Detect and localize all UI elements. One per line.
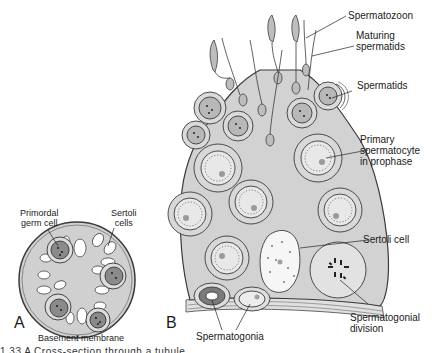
label-spermatids: Spermatids	[357, 80, 408, 91]
panel-b-epithelium	[168, 15, 389, 330]
diagram-canvas	[0, 0, 436, 353]
panel-a-cord	[19, 222, 135, 338]
label-sertoli-cells: Sertoli cells	[111, 208, 137, 228]
label-primordial-germ-cell: Primordal germ cell	[20, 208, 59, 228]
label-sertoli-cell: Sertoli cell	[363, 234, 409, 245]
label-spermatogonia: Spermatogonia	[196, 331, 264, 342]
label-maturing-spermatids: Maturing spermatids	[356, 30, 405, 52]
panel-letter-b: B	[166, 314, 177, 332]
label-primary-spermatocyte: Primary spermatocyte in prophase	[360, 134, 420, 167]
label-spermatogonial-division: Spermatogonial division	[350, 312, 420, 334]
panel-letter-a: A	[14, 314, 25, 332]
label-basement-membrane: Basement membrane	[38, 333, 124, 343]
figure-caption: 1.33 A Cross-section through a tubule...	[0, 344, 436, 353]
label-spermatozoon: Spermatozoon	[348, 10, 413, 21]
